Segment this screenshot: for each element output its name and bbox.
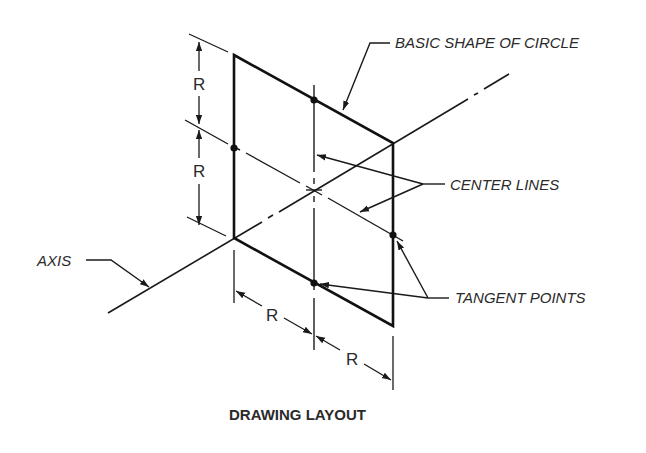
tangent-point-left	[230, 144, 237, 151]
dimension-r-left-lower: R	[193, 162, 205, 181]
label-axis: AXIS	[36, 252, 71, 269]
dimension-r-bottom-left: R	[266, 306, 278, 325]
tangent-point-bottom	[310, 279, 317, 286]
dimension-r-left-upper: R	[193, 75, 205, 94]
drawing-layout-diagram: R R R R BASIC SHAPE OF CIRCLE CENTER LIN…	[0, 0, 646, 453]
diagram-caption: DRAWING LAYOUT	[229, 406, 366, 423]
dimension-r-bottom-right: R	[346, 350, 358, 369]
tangent-point-top	[310, 96, 317, 103]
basic-shape-leader	[343, 43, 390, 110]
label-center-lines: CENTER LINES	[450, 176, 559, 193]
label-tangent-points: TANGENT POINTS	[455, 289, 586, 306]
label-basic-shape-of-circle: BASIC SHAPE OF CIRCLE	[395, 34, 580, 51]
axis-leader	[86, 260, 149, 287]
axis-line	[108, 74, 509, 313]
slanted-center-line	[185, 120, 403, 241]
tangent-points-leader	[320, 241, 449, 298]
left-extension-lines	[187, 34, 228, 236]
tangent-point-right	[389, 231, 396, 238]
